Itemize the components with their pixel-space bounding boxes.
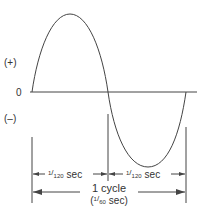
full-cycle-label: 1 cycle bbox=[92, 182, 126, 194]
sine-wave-diagram: (+) 0 (–) 1/120sec 1/120sec 1 cycle (1/6… bbox=[0, 0, 205, 220]
positive-label: (+) bbox=[4, 57, 17, 68]
half-cycle-2-dimension: 1/120sec bbox=[109, 168, 185, 180]
sine-wave-curve bbox=[32, 14, 186, 167]
full-cycle-dimension: 1 cycle (1/60sec) bbox=[33, 182, 185, 206]
negative-label: (–) bbox=[4, 113, 16, 124]
zero-label: 0 bbox=[16, 87, 22, 98]
full-cycle-time-label: (1/60sec) bbox=[90, 194, 128, 206]
half-cycle-1-label: 1/120sec bbox=[48, 168, 82, 180]
half-cycle-2-label: 1/120sec bbox=[126, 168, 160, 180]
half-cycle-1-dimension: 1/120sec bbox=[33, 168, 107, 180]
